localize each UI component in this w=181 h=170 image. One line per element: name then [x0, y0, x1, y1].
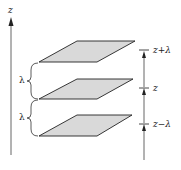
plane-bottom [39, 115, 132, 136]
lambda-brace-upper [27, 63, 38, 99]
plane-middle [39, 79, 133, 99]
z-axis-label: z [8, 6, 13, 15]
lambda-brace-lower [27, 100, 38, 136]
lambda-label-lower: λ [19, 113, 25, 122]
level-label-z-minus-lambda: z−λ [153, 120, 171, 129]
right-arrow-icon [142, 88, 146, 95]
right-arrow-icon [142, 51, 146, 58]
lambda-label-upper: λ [19, 76, 25, 85]
plane-top [39, 41, 135, 62]
level-label-z-plus-lambda: z+λ [153, 46, 171, 55]
right-arrow-icon [142, 124, 146, 131]
level-label-z: z [153, 84, 158, 93]
z-axis-arrow-icon [9, 17, 14, 26]
